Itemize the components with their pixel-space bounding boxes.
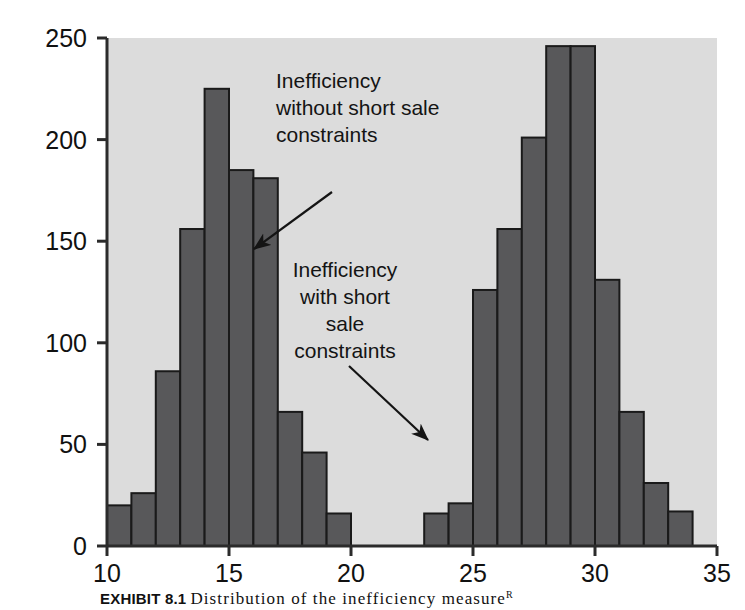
y-axis-tick-labels: 050100150200250 <box>45 24 87 560</box>
chart-figure: 050100150200250 101520253035 Inefficienc… <box>0 0 745 585</box>
annotation-line: sale <box>326 312 365 335</box>
histogram-bar <box>156 371 180 546</box>
caption-text: Distribution of the inefficiency measure <box>190 589 506 608</box>
x-axis-tick-labels: 101520253035 <box>93 559 731 585</box>
y-tick-label: 150 <box>45 227 87 255</box>
histogram-bar <box>180 229 204 546</box>
histogram-bar <box>131 493 155 546</box>
annotation-line: with short <box>299 285 390 308</box>
annotation-line: Inefficiency <box>293 258 398 281</box>
annotation-line: constraints <box>276 123 378 146</box>
y-tick-label: 50 <box>59 430 87 458</box>
histogram-bar <box>424 513 448 546</box>
histogram-bar <box>595 280 619 546</box>
histogram-bar <box>668 511 692 546</box>
y-tick-label: 250 <box>45 24 87 52</box>
figure-caption: EXHIBIT 8.1 Distribution of the ineffici… <box>100 589 720 609</box>
histogram-bar <box>644 483 668 546</box>
histogram-bar <box>107 505 131 546</box>
y-tick-label: 100 <box>45 329 87 357</box>
y-tick-label: 0 <box>73 532 87 560</box>
histogram-chart: 050100150200250 101520253035 Inefficienc… <box>0 0 745 585</box>
x-tick-label: 35 <box>703 559 731 585</box>
x-tick-label: 20 <box>337 559 365 585</box>
histogram-bar <box>522 138 546 546</box>
histogram-bar <box>302 453 326 546</box>
histogram-bar <box>473 290 497 546</box>
annotation-line: without short sale <box>275 96 439 119</box>
y-tick-label: 200 <box>45 126 87 154</box>
histogram-bar <box>619 412 643 546</box>
caption-superscript: R <box>506 589 513 600</box>
x-tick-label: 15 <box>215 559 243 585</box>
histogram-bar <box>278 412 302 546</box>
histogram-bar <box>229 170 253 546</box>
figure-page: 050100150200250 101520253035 Inefficienc… <box>0 0 745 610</box>
x-tick-label: 30 <box>581 559 609 585</box>
histogram-bar <box>327 513 351 546</box>
annotation-line: constraints <box>294 339 396 362</box>
x-tick-label: 25 <box>459 559 487 585</box>
histogram-bar <box>449 503 473 546</box>
histogram-bar <box>497 229 521 546</box>
histogram-bar <box>205 89 229 546</box>
histogram-bar <box>571 46 595 546</box>
x-tick-label: 10 <box>93 559 121 585</box>
annotation-line: Inefficiency <box>276 69 381 92</box>
caption-label: EXHIBIT 8.1 <box>100 590 186 607</box>
histogram-bar <box>546 46 570 546</box>
